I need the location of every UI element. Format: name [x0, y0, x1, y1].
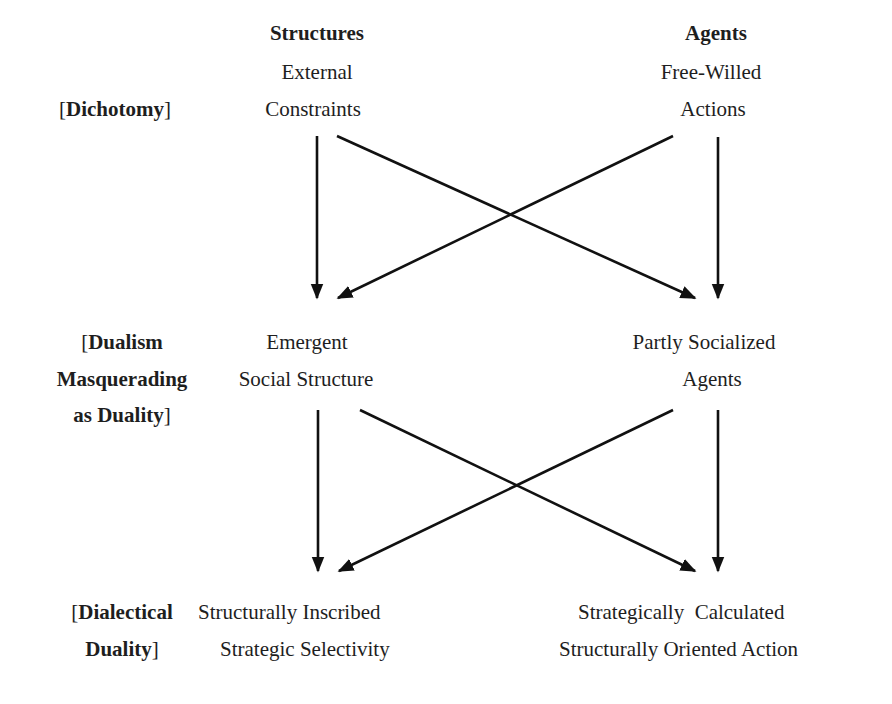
arrow-partly-socialized-to-structurally-inscribed	[339, 410, 673, 571]
arrows-layer	[0, 0, 892, 704]
arrow-emergent-to-strategically-calculated	[360, 410, 695, 571]
